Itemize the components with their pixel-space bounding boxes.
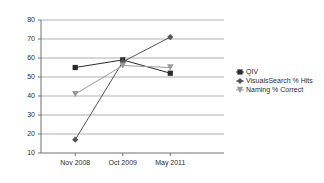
legend-item[interactable]: QIV — [236, 68, 313, 76]
series-layer — [72, 34, 173, 143]
y-axis-tick-label: 10 — [13, 149, 35, 156]
legend-marker-diamond-icon — [236, 77, 244, 85]
line-chart: 8070605040302010 Nov 2008Oct 2009May 201… — [0, 0, 324, 183]
y-axis-tick-label: 40 — [13, 92, 35, 99]
legend-item-label: QIV — [246, 68, 258, 76]
y-axis-tick-label: 50 — [13, 73, 35, 80]
legend-item-label: Naming % Correct — [246, 86, 303, 94]
chart-legend: QIVVisualsSearch % HitsNaming % Correct — [236, 68, 313, 94]
data-point-marker — [72, 137, 78, 143]
y-axis-tick-label: 20 — [13, 130, 35, 137]
series-line — [75, 37, 170, 140]
y-axis-tick-label: 30 — [13, 111, 35, 118]
legend-item[interactable]: Naming % Correct — [236, 86, 313, 94]
data-point-marker — [168, 71, 173, 76]
x-axis-tick-label: Nov 2008 — [51, 159, 99, 166]
x-axis-tick-label: Oct 2009 — [99, 159, 147, 166]
data-point-marker — [73, 65, 78, 70]
x-axis-tick-label: May 2011 — [146, 159, 194, 166]
legend-item[interactable]: VisualsSearch % Hits — [236, 77, 313, 85]
y-axis-tick-label: 60 — [13, 54, 35, 61]
series-line — [75, 66, 170, 95]
y-axis-tick-label: 70 — [13, 35, 35, 42]
legend-marker-square-icon — [236, 68, 244, 76]
legend-item-label: VisualsSearch % Hits — [246, 77, 313, 85]
legend-marker-triangle-down-icon — [236, 86, 244, 94]
gridlines — [41, 20, 224, 134]
y-axis-tick-label: 80 — [13, 16, 35, 23]
